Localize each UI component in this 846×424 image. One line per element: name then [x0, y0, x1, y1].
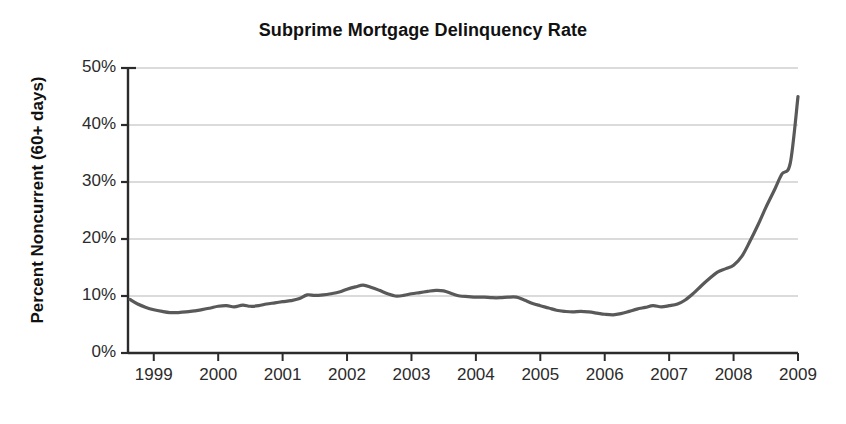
x-tick-label: 1999: [119, 365, 189, 385]
x-tick-label: 2009: [763, 365, 833, 385]
chart-title: Subprime Mortgage Delinquency Rate: [0, 20, 846, 41]
y-tick-label: 30%: [56, 171, 116, 191]
x-tick-label: 2008: [699, 365, 769, 385]
gridlines-group: [128, 68, 798, 296]
y-tick-label: 40%: [56, 114, 116, 134]
x-tick-label: 2004: [441, 365, 511, 385]
axis-spines-group: [128, 68, 798, 361]
x-tick-label: 2001: [248, 365, 318, 385]
chart-figure: Subprime Mortgage Delinquency Rate Perce…: [0, 0, 846, 424]
x-tick-label: 2007: [634, 365, 704, 385]
x-tick-label: 2005: [505, 365, 575, 385]
y-tick-label: 20%: [56, 228, 116, 248]
y-tick-label: 50%: [56, 57, 116, 77]
x-tick-label: 2003: [376, 365, 446, 385]
y-tick-label: 0%: [56, 342, 116, 362]
y-tick-label: 10%: [56, 285, 116, 305]
x-tick-label: 2000: [183, 365, 253, 385]
x-tick-label: 2006: [570, 365, 640, 385]
y-axis-label: Percent Noncurrent (60+ days): [28, 50, 48, 350]
plot-area: [0, 0, 846, 424]
data-line-series: [130, 97, 798, 315]
x-tick-label: 2002: [312, 365, 382, 385]
x-tick-marks-group: [154, 353, 798, 361]
